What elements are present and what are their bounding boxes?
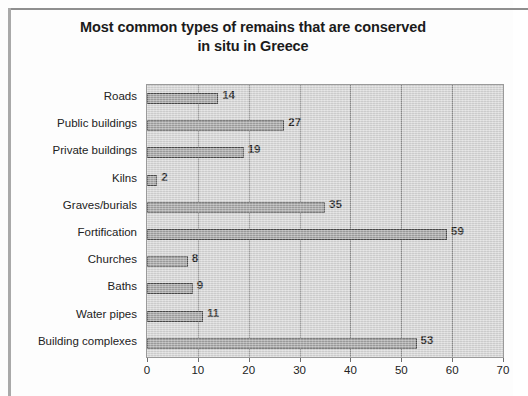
chart-title-line-2: in situ in Greece [18,37,488,56]
category-label: Graves/burials [9,199,137,211]
category-label: Kilns [9,172,137,184]
bar [147,338,417,349]
bar-value-label: 11 [207,307,219,319]
x-tick-mark [300,358,301,362]
x-tick-mark [452,358,453,362]
bar [147,311,203,322]
bar-value-label: 14 [222,89,235,101]
x-tick-mark [249,358,250,362]
bar-row: 27 [147,112,503,139]
x-tick-label: 30 [293,364,306,376]
bar-value-label: 35 [329,198,342,210]
x-tick-mark [503,358,504,362]
bar-row: 19 [147,139,503,166]
bar [147,147,244,158]
x-tick-mark [147,358,148,362]
x-tick-label: 70 [497,364,510,376]
category-label: Churches [9,253,137,265]
category-label: Private buildings [9,144,137,156]
bar-value-label: 53 [421,334,434,346]
bar-row: 11 [147,303,503,330]
bar-row: 2 [147,167,503,194]
bar [147,120,284,131]
gridline-70 [503,85,504,357]
bar-value-label: 59 [451,225,464,237]
category-label: Building complexes [9,335,137,347]
x-tick-label: 50 [395,364,408,376]
bar [147,202,325,213]
category-label: Roads [9,90,137,102]
bar [147,93,218,104]
bar-value-label: 27 [288,116,301,128]
bar [147,256,188,267]
bar-row: 14 [147,85,503,112]
chart-title: Most common types of remains that are co… [18,18,488,56]
bar-value-label: 19 [248,143,261,155]
x-tick-mark [198,358,199,362]
bar-value-label: 9 [197,279,203,291]
x-tick-mark [401,358,402,362]
category-label: Water pipes [9,308,137,320]
bar [147,229,447,240]
x-tick-label: 60 [446,364,459,376]
chart-title-line-1: Most common types of remains that are co… [80,19,426,35]
x-tick-label: 0 [144,364,150,376]
bar-value-label: 2 [161,171,167,183]
x-tick-label: 40 [344,364,357,376]
category-label: Baths [9,280,137,292]
category-label: Public buildings [9,117,137,129]
bar-row: 8 [147,248,503,275]
bar-row: 53 [147,330,503,357]
plot-area: 14271923559891153 [146,84,504,358]
category-label: Fortification [9,226,137,238]
bar-row: 9 [147,275,503,302]
bar [147,175,157,186]
x-tick-mark [350,358,351,362]
x-tick-label: 20 [242,364,255,376]
x-tick-label: 10 [191,364,204,376]
bar-value-label: 8 [192,252,198,264]
bar [147,283,193,294]
bar-row: 59 [147,221,503,248]
bar-row: 35 [147,194,503,221]
